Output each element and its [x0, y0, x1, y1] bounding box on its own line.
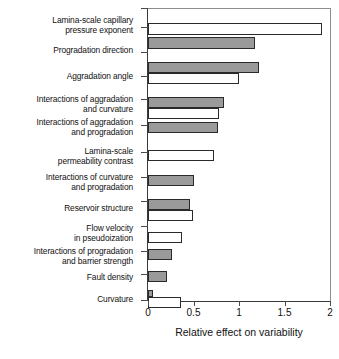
y-axis-tick [141, 52, 148, 53]
category-label-interactions-of-aggradation-and-progradation: Interactions of aggradation and prograda… [0, 118, 133, 137]
bar [148, 290, 153, 297]
bar [148, 232, 182, 243]
y-axis-tick [141, 226, 148, 227]
category-label-interactions-of-aggradation-and-curvature: Interactions of aggradation and curvatur… [0, 95, 133, 114]
label-line: Curvature [0, 295, 133, 305]
y-axis-tick [141, 300, 148, 301]
x-axis-tick [148, 301, 149, 306]
label-line: and curvature [0, 105, 133, 115]
label-line: permeability contrast [0, 157, 133, 167]
bar [148, 271, 167, 282]
x-axis-tick-label: 0 [145, 307, 151, 318]
bar [148, 175, 194, 186]
category-label-interactions-of-progradation-and-barrier-strength: Interactions of progradation and barrier… [0, 247, 133, 266]
label-line: in pseudoization [0, 234, 133, 244]
label-line: and progradation [0, 183, 133, 193]
x-axis-tick [239, 301, 240, 306]
y-axis-tick [141, 76, 148, 77]
x-axis-tick [285, 301, 286, 306]
bar [148, 297, 181, 308]
plot-area [148, 8, 331, 302]
label-line: Progradation direction [0, 46, 133, 56]
y-axis-tick [141, 27, 148, 28]
bar [148, 249, 172, 260]
bar [148, 108, 219, 119]
label-line: Fault density [0, 273, 133, 283]
y-axis-tick [141, 251, 148, 252]
y-axis-tick [141, 152, 148, 153]
y-axis-tick [141, 8, 148, 9]
y-axis-tick [141, 177, 148, 178]
bar [148, 97, 224, 108]
y-axis-tick [141, 201, 148, 202]
y-axis-tick [141, 99, 148, 100]
category-label-interactions-of-curvature-and-progradation: Interactions of curvature and progradati… [0, 173, 133, 192]
category-label-lamina-scale-capillary-pressure-exponent: Lamina-scale capillary pressure exponent [0, 16, 133, 35]
label-line: Reservoir structure [0, 204, 133, 214]
bar [148, 73, 239, 84]
label-line: pressure exponent [0, 26, 133, 36]
category-label-progradation-direction: Progradation direction [0, 46, 133, 56]
bar [148, 23, 322, 35]
category-label-flow-velocity-in-pseudoization: Flow velocity in pseudoization [0, 224, 133, 243]
label-line: and progradation [0, 128, 133, 138]
y-axis-tick [141, 125, 148, 126]
y-axis-tick [141, 274, 148, 275]
label-line: Aggradation angle [0, 72, 133, 82]
bar-chart: Lamina-scale capillary pressure exponent… [0, 0, 339, 359]
bar [148, 210, 193, 221]
bar [148, 62, 259, 73]
category-label-lamina-scale-permeability-contrast: Lamina-scale permeability contrast [0, 147, 133, 166]
x-axis-tick-label: 1 [236, 307, 242, 318]
x-axis-tick [330, 301, 331, 306]
x-axis-tick [194, 301, 195, 306]
x-axis-tick-label: 1.5 [278, 307, 292, 318]
category-label-curvature: Curvature [0, 295, 133, 305]
bar [148, 37, 255, 49]
category-label-reservoir-structure: Reservoir structure [0, 204, 133, 214]
x-axis-tick-label: 0.5 [187, 307, 201, 318]
bar [148, 199, 190, 210]
category-label-column: Lamina-scale capillary pressure exponent… [0, 8, 139, 300]
label-line: and barrier strength [0, 257, 133, 267]
category-label-fault-density: Fault density [0, 273, 133, 283]
bar [148, 122, 218, 133]
x-axis-title: Relative effect on variability [148, 326, 330, 338]
bar [148, 150, 214, 161]
category-label-aggradation-angle: Aggradation angle [0, 72, 133, 82]
x-axis-tick-label: 2 [327, 307, 333, 318]
